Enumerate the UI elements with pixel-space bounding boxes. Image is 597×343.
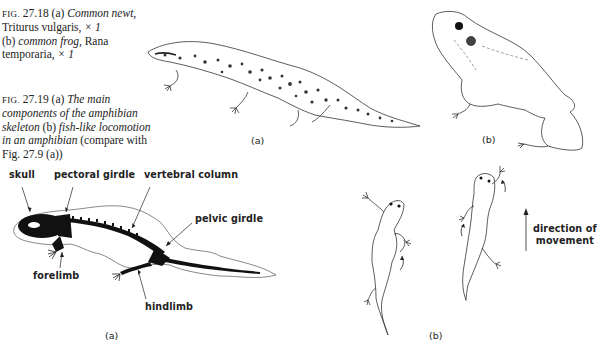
skeleton-sublabel: (a) xyxy=(105,330,118,341)
label-pectoral-girdle: pectoral girdle xyxy=(54,169,135,180)
label-vertebral-column: vertebral column xyxy=(144,169,238,180)
pelvic-girdle-bone xyxy=(148,248,170,266)
label-forelimb: forelimb xyxy=(33,270,79,281)
newt-sublabel: (a) xyxy=(251,135,264,146)
label-hindlimb: hindlimb xyxy=(145,301,193,312)
locomotion-newt-right xyxy=(459,166,505,300)
label-skull: skull xyxy=(9,169,35,180)
hindlimb-bone xyxy=(120,262,152,275)
direction-label-line-2: movement xyxy=(533,235,597,247)
skeleton-leader-lines xyxy=(22,187,192,299)
vertebral-column-bone xyxy=(66,218,165,256)
direction-arrow-head xyxy=(524,208,529,215)
locomotion-newt-left xyxy=(362,192,411,335)
forelimb-bone xyxy=(52,236,64,252)
newt-spots xyxy=(164,54,394,123)
frog-eye xyxy=(455,22,463,30)
frog-sublabel: (b) xyxy=(482,134,495,145)
direction-label-line-1: direction of xyxy=(533,223,597,235)
frog-illustration xyxy=(432,11,582,150)
frog-tympanum xyxy=(467,37,476,46)
label-direction-of-movement: direction of movement xyxy=(533,223,597,247)
newt-illustration xyxy=(148,42,420,128)
skull-orbit xyxy=(28,222,40,228)
label-pelvic-girdle: pelvic girdle xyxy=(195,213,263,224)
tail-vertebrae xyxy=(165,258,260,274)
locomotion-sublabel: (b) xyxy=(429,330,442,341)
